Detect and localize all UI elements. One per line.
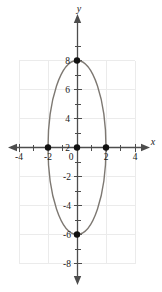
- point-marker: [74, 144, 80, 150]
- graph-figure: -4 -2 2 4 8 6 4 2 -2 -4 -6 -8 0 x y: [0, 0, 162, 292]
- x-axis-label: x: [150, 136, 156, 147]
- x-tick-label-pos2: 2: [104, 152, 109, 162]
- x-tick-label-neg2: -2: [44, 152, 52, 162]
- y-tick-label-neg2: -2: [63, 172, 71, 182]
- x-axis-arrow-right: [141, 144, 150, 151]
- y-axis-arrow-down: [74, 276, 81, 285]
- origin-label: 0: [69, 152, 74, 162]
- point-marker: [74, 57, 80, 63]
- y-axis-tick-labels: 8 6 4 2 -2 -4 -6 -8: [63, 56, 71, 269]
- x-tick-label-neg4: -4: [15, 152, 23, 162]
- y-tick-label-neg6: -6: [63, 230, 71, 240]
- x-axis-arrow-left: [8, 144, 17, 151]
- y-tick-label-pos8: 8: [65, 56, 70, 66]
- x-axis-tick-labels: -4 -2 2 4: [15, 152, 138, 162]
- y-tick-label-pos4: 4: [65, 114, 70, 124]
- y-tick-label-pos2: 2: [65, 143, 70, 153]
- y-tick-label-neg8: -8: [63, 259, 71, 269]
- x-tick-label-pos4: 4: [133, 152, 138, 162]
- y-axis-arrow-up: [74, 14, 81, 23]
- point-marker: [45, 144, 51, 150]
- point-marker: [74, 231, 80, 237]
- y-tick-label-pos6: 6: [65, 85, 70, 95]
- point-marker: [103, 144, 109, 150]
- y-tick-label-neg4: -4: [63, 201, 71, 211]
- coordinate-plane-chart: -4 -2 2 4 8 6 4 2 -2 -4 -6 -8 0 x y: [0, 0, 162, 292]
- y-axis-label: y: [76, 3, 82, 14]
